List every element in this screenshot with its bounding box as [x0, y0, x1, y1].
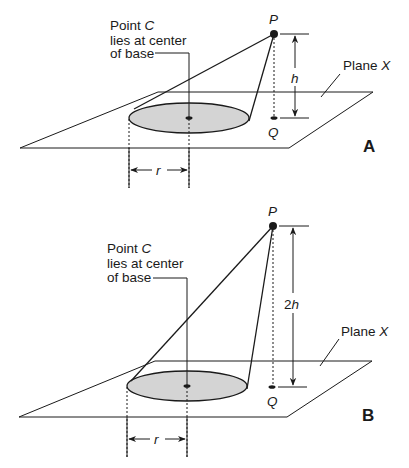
plane-label: Plane X — [341, 324, 389, 339]
cone-diagrams: Point C lies at center of base P Q h r P… — [0, 0, 409, 468]
diagram-svg: Point C lies at center of base P Q h r P… — [0, 0, 409, 468]
radius-label: r — [154, 432, 159, 447]
center-note-line2: lies at center — [107, 256, 184, 271]
center-note-line1: Point C — [107, 241, 152, 256]
center-leader — [153, 278, 187, 386]
apex-label: P — [269, 12, 278, 27]
center-note-line1: Point C — [110, 18, 155, 33]
diagram-a: Point C lies at center of base P Q h r P… — [20, 12, 391, 188]
center-note-line3: of base — [107, 270, 151, 285]
panel-label-b: B — [362, 406, 374, 425]
diagram-b: Point C lies at center of base P Q 2h r … — [19, 204, 389, 457]
plane-label: Plane X — [343, 58, 391, 73]
plane-leader — [321, 74, 340, 97]
apex-point-p — [270, 30, 278, 38]
cone-edge-right — [249, 34, 274, 121]
foot-point-q — [271, 116, 278, 120]
apex-label: P — [268, 204, 277, 219]
plane-leader — [320, 339, 339, 366]
panel-label-a: A — [363, 137, 375, 156]
foot-label: Q — [267, 394, 278, 409]
foot-point-q — [269, 385, 276, 389]
foot-label: Q — [268, 125, 279, 140]
radius-label: r — [156, 163, 161, 178]
height-label: h — [291, 71, 299, 86]
height-label: 2h — [284, 297, 299, 312]
center-note-line3: of base — [110, 46, 154, 61]
apex-point-p — [269, 222, 277, 230]
